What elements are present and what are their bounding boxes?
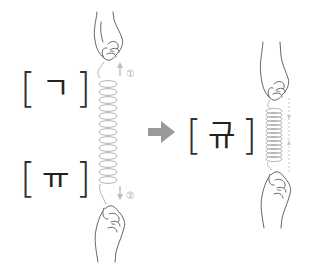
stretched-spring-icon bbox=[98, 62, 117, 204]
hand-pushing-down-icon bbox=[260, 42, 288, 100]
up-arrow-icon bbox=[117, 62, 123, 76]
hand-pushing-up-icon bbox=[261, 172, 290, 228]
hand-pulling-down-icon bbox=[95, 206, 124, 262]
compression-guide-icon bbox=[287, 98, 291, 172]
down-arrow-icon bbox=[117, 186, 123, 200]
illustration-layer bbox=[0, 0, 309, 272]
right-arrow-icon bbox=[148, 121, 175, 143]
compressed-spring-icon bbox=[266, 100, 282, 170]
hand-pulling-up-icon bbox=[94, 12, 122, 60]
